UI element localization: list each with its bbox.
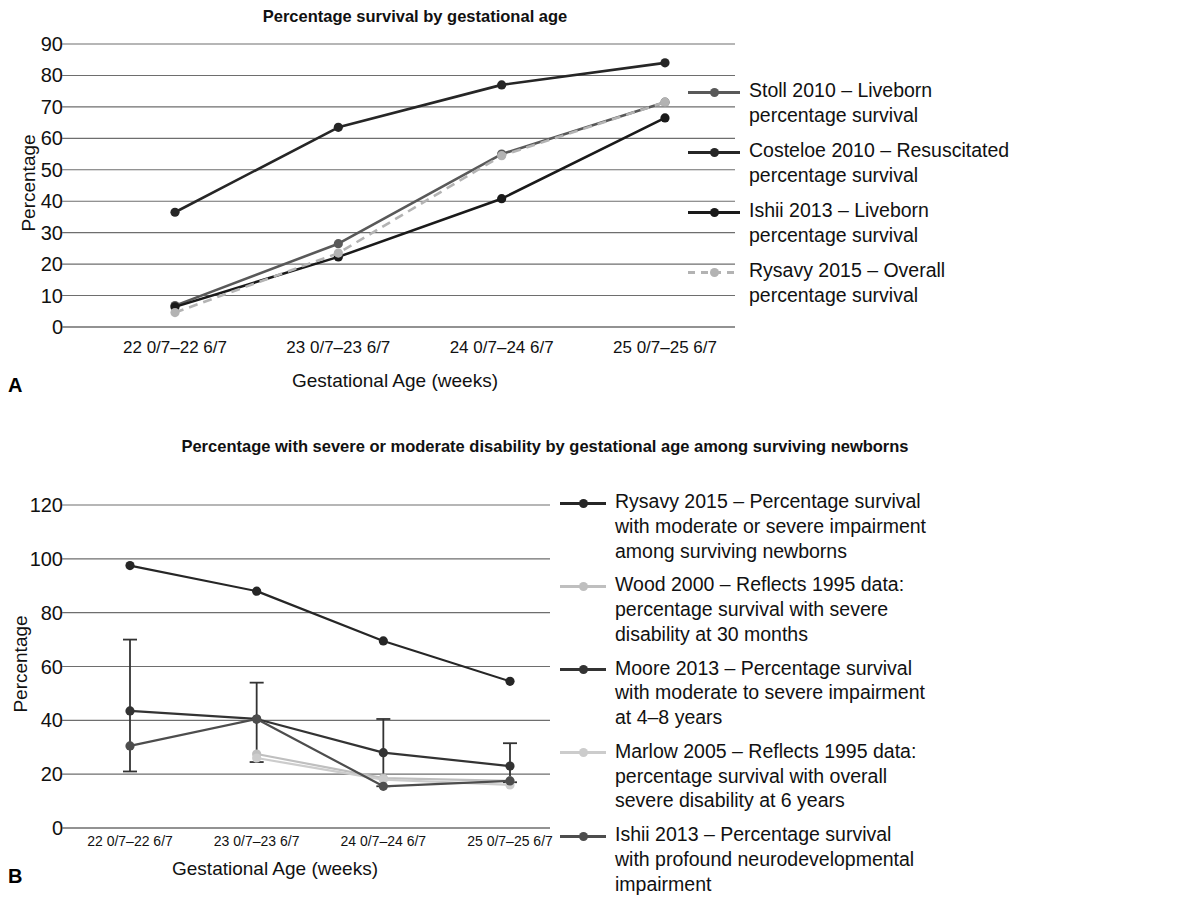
legend-item[interactable]: Rysavy 2015 – Overall percentage surviva…: [688, 258, 1188, 307]
legend-swatch-icon: [560, 742, 606, 764]
legend-item[interactable]: Ishii 2013 – Percentage survival with pr…: [560, 822, 1193, 896]
legend-dot: [579, 665, 588, 674]
legend-item[interactable]: Wood 2000 – Reflects 1995 data: percenta…: [560, 572, 1193, 646]
legend-label: Moore 2013 – Percentage survival with mo…: [615, 656, 925, 730]
series-3: [170, 113, 669, 311]
series-1: [125, 561, 514, 686]
chart-b-title: Percentage with severe or moderate disab…: [95, 436, 995, 456]
data-point: [505, 776, 514, 785]
y-axis-tick-label: 90: [41, 34, 63, 54]
legend-label: Stoll 2010 – Liveborn percentage surviva…: [749, 78, 932, 127]
legend-label: Rysavy 2015 – Overall percentage surviva…: [749, 258, 945, 307]
legend-dot: [710, 268, 719, 277]
y-axis-tick-label: 0: [52, 818, 63, 838]
legend-dot: [579, 748, 588, 757]
x-axis-tick-label: 23 0/7–23 6/7: [286, 339, 390, 356]
x-axis-tick-label: 22 0/7–22 6/7: [87, 834, 173, 848]
chart-a-x-axis-label: Gestational Age (weeks): [170, 370, 620, 392]
chart-canvas: [70, 505, 550, 828]
figure-root: Percentage survival by gestational age P…: [0, 0, 1193, 898]
panel-a-letter: A: [8, 374, 22, 397]
legend-swatch-icon: [560, 492, 606, 514]
legend-item[interactable]: Moore 2013 – Percentage survival with mo…: [560, 656, 1193, 730]
legend-swatch-icon: [688, 201, 740, 223]
legend-swatch-icon: [560, 825, 606, 847]
chart-a-y-axis-label: Percentage: [18, 123, 40, 243]
y-axis-tick-label: 60: [41, 128, 63, 148]
chart-a-plot-area: 010203040506070809022 0/7–22 6/723 0/7–2…: [70, 44, 735, 327]
data-point: [252, 714, 261, 723]
y-axis-tick-label: 60: [41, 657, 63, 677]
chart-b-y-axis-label: Percentage: [10, 604, 32, 724]
legend-label: Rysavy 2015 – Percentage survival with m…: [615, 489, 926, 563]
data-point: [125, 741, 134, 750]
legend-label: Costeloe 2010 – Resuscitated percentage …: [749, 138, 1009, 187]
legend-swatch-icon: [688, 141, 740, 163]
chart-b-legend: Rysavy 2015 – Percentage survival with m…: [560, 489, 1193, 898]
legend-dot: [710, 208, 719, 217]
legend-swatch-icon: [560, 575, 606, 597]
legend-swatch-icon: [560, 659, 606, 681]
y-axis-tick-label: 10: [41, 286, 63, 306]
y-axis-tick-label: 40: [41, 710, 63, 730]
data-point: [252, 587, 261, 596]
chart-b-x-axis-label: Gestational Age (weeks): [60, 858, 490, 880]
chart-b-plot-area: 02040608010012022 0/7–22 6/723 0/7–23 6/…: [70, 505, 550, 828]
legend-dot: [579, 832, 588, 841]
series-line: [130, 566, 510, 682]
data-point: [334, 249, 343, 258]
series-line: [130, 711, 510, 766]
legend-item[interactable]: Marlow 2005 – Reflects 1995 data: percen…: [560, 739, 1193, 813]
data-point: [379, 636, 388, 645]
legend-item[interactable]: Ishii 2013 – Liveborn percentage surviva…: [688, 198, 1188, 247]
y-axis-tick-label: 30: [41, 223, 63, 243]
y-axis-tick-label: 50: [41, 160, 63, 180]
y-axis-tick-label: 80: [41, 603, 63, 623]
legend-label: Marlow 2005 – Reflects 1995 data: percen…: [615, 739, 916, 813]
legend-dot: [710, 148, 719, 157]
x-axis-tick-label: 24 0/7–24 6/7: [450, 339, 554, 356]
x-axis-tick-label: 22 0/7–22 6/7: [123, 339, 227, 356]
legend-label: Wood 2000 – Reflects 1995 data: percenta…: [615, 572, 904, 646]
x-axis-tick-label: 25 0/7–25 6/7: [613, 339, 717, 356]
data-point: [660, 58, 669, 67]
series-1: [170, 98, 669, 311]
legend-swatch-icon: [688, 261, 740, 283]
y-axis-tick-label: 120: [30, 495, 63, 515]
data-point: [125, 561, 134, 570]
series-3: [125, 706, 514, 770]
data-point: [170, 308, 179, 317]
y-axis-tick-label: 70: [41, 97, 63, 117]
data-point: [252, 753, 261, 762]
data-point: [170, 208, 179, 217]
chart-a-title: Percentage survival by gestational age: [150, 6, 680, 26]
y-axis-tick-label: 0: [52, 317, 63, 337]
legend-label: Ishii 2013 – Liveborn percentage surviva…: [749, 198, 929, 247]
legend-item[interactable]: Costeloe 2010 – Resuscitated percentage …: [688, 138, 1188, 187]
data-point: [497, 194, 506, 203]
data-point: [505, 677, 514, 686]
data-point: [660, 98, 669, 107]
chart-canvas: [70, 44, 735, 327]
series-line: [175, 102, 665, 305]
x-axis-tick-label: 23 0/7–23 6/7: [214, 834, 300, 848]
series-line: [130, 719, 510, 786]
legend-dot: [579, 499, 588, 508]
legend-item[interactable]: Rysavy 2015 – Percentage survival with m…: [560, 489, 1193, 563]
data-point: [379, 782, 388, 791]
data-point: [379, 748, 388, 757]
data-point: [497, 151, 506, 160]
data-point: [334, 239, 343, 248]
chart-a-legend: Stoll 2010 – Liveborn percentage surviva…: [688, 78, 1188, 319]
series-line: [175, 102, 665, 312]
series-line: [175, 63, 665, 212]
y-axis-tick-label: 100: [30, 549, 63, 569]
y-axis-tick-label: 40: [41, 191, 63, 211]
data-point: [334, 123, 343, 132]
legend-item[interactable]: Stoll 2010 – Liveborn percentage surviva…: [688, 78, 1188, 127]
y-axis-tick-label: 20: [41, 764, 63, 784]
x-axis-tick-label: 25 0/7–25 6/7: [467, 834, 553, 848]
panel-a: Percentage survival by gestational age P…: [0, 0, 1193, 425]
data-point: [125, 706, 134, 715]
gridlines: [62, 44, 735, 327]
